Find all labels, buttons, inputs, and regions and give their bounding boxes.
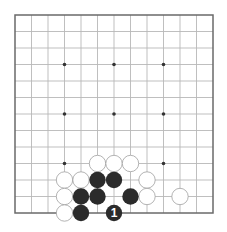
hoshi-point [162, 112, 166, 116]
black-stone [73, 205, 89, 221]
white-stone [106, 155, 122, 171]
white-stone [139, 172, 155, 188]
black-stone [89, 188, 105, 204]
hoshi-point [63, 63, 67, 67]
white-stone [56, 205, 72, 221]
white-stone [89, 155, 105, 171]
hoshi-point [112, 63, 116, 67]
black-stone [122, 188, 138, 204]
go-board: 1 [0, 0, 227, 232]
white-stone [139, 188, 155, 204]
hoshi-point [63, 162, 67, 166]
white-stone [122, 155, 138, 171]
hoshi-point [112, 112, 116, 116]
black-stone [89, 172, 105, 188]
hoshi-point [162, 162, 166, 166]
white-stone [73, 172, 89, 188]
black-stone [73, 188, 89, 204]
black-stone [106, 172, 122, 188]
white-stone [172, 188, 188, 204]
stones-layer: 1 [56, 155, 188, 221]
hoshi-point [162, 63, 166, 67]
white-stone [56, 172, 72, 188]
hoshi-point [63, 112, 67, 116]
move-number-label: 1 [111, 206, 118, 220]
white-stone [56, 188, 72, 204]
